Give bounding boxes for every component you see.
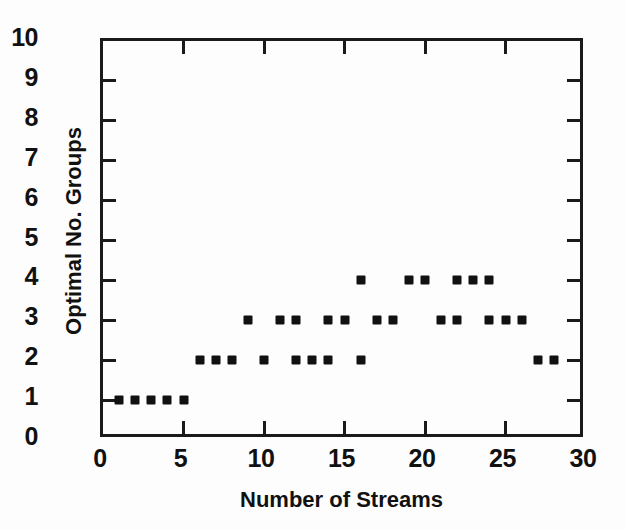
data-point	[115, 396, 124, 405]
data-point	[356, 276, 365, 285]
data-point	[179, 396, 188, 405]
x-tick-20	[424, 421, 427, 434]
y-tick-label-3: 3	[25, 304, 38, 329]
x-tick-label-15: 15	[312, 446, 372, 471]
y-tick-label-6: 6	[25, 185, 38, 210]
y-axis-title: Optimal No. Groups	[61, 31, 87, 431]
y-tick-7	[103, 159, 116, 162]
x-tick-15	[343, 421, 346, 434]
data-point	[292, 316, 301, 325]
data-point	[453, 276, 462, 285]
data-point	[324, 316, 333, 325]
y-tick-right-9	[567, 79, 580, 82]
y-tick-label-4: 4	[25, 264, 38, 289]
x-tick-top-20	[424, 41, 427, 54]
x-tick-label-10: 10	[231, 446, 291, 471]
x-tick-label-25: 25	[473, 446, 533, 471]
y-tick-9	[103, 79, 116, 82]
data-point	[131, 396, 140, 405]
x-tick-top-25	[504, 41, 507, 54]
data-point	[388, 316, 397, 325]
x-tick-top-10	[263, 41, 266, 54]
y-tick-8	[103, 119, 116, 122]
y-tick-right-7	[567, 159, 580, 162]
y-tick-label-10: 10	[11, 25, 38, 50]
y-tick-4	[103, 279, 116, 282]
y-tick-right-2	[567, 359, 580, 362]
y-tick-right-4	[567, 279, 580, 282]
data-point	[517, 316, 526, 325]
data-point	[211, 356, 220, 365]
y-tick-label-1: 1	[25, 384, 38, 409]
x-tick-label-5: 5	[151, 446, 211, 471]
data-point	[163, 396, 172, 405]
data-point	[437, 316, 446, 325]
y-tick-right-3	[567, 319, 580, 322]
data-point	[324, 356, 333, 365]
data-point	[243, 316, 252, 325]
x-tick-label-30: 30	[553, 446, 613, 471]
data-point	[404, 276, 413, 285]
y-tick-label-9: 9	[25, 65, 38, 90]
x-tick-label-20: 20	[392, 446, 452, 471]
data-point	[340, 316, 349, 325]
y-tick-right-6	[567, 199, 580, 202]
x-tick-top-5	[182, 41, 185, 54]
data-point	[147, 396, 156, 405]
data-point	[549, 356, 558, 365]
data-point	[485, 276, 494, 285]
x-tick-5	[182, 421, 185, 434]
data-point	[501, 316, 510, 325]
data-point	[453, 316, 462, 325]
data-point	[227, 356, 236, 365]
data-point	[292, 356, 301, 365]
data-point	[195, 356, 204, 365]
data-point	[485, 316, 494, 325]
plot-area	[100, 38, 583, 437]
y-tick-6	[103, 199, 116, 202]
x-tick-25	[504, 421, 507, 434]
y-tick-label-0: 0	[25, 424, 38, 449]
data-point	[469, 276, 478, 285]
data-point	[372, 316, 381, 325]
y-tick-2	[103, 359, 116, 362]
data-point	[421, 276, 430, 285]
data-point	[533, 356, 542, 365]
x-tick-10	[263, 421, 266, 434]
y-tick-5	[103, 239, 116, 242]
data-point	[308, 356, 317, 365]
y-tick-3	[103, 319, 116, 322]
y-tick-label-5: 5	[25, 225, 38, 250]
y-tick-right-8	[567, 119, 580, 122]
y-tick-label-8: 8	[25, 105, 38, 130]
x-tick-label-0: 0	[70, 446, 130, 471]
x-tick-top-15	[343, 41, 346, 54]
x-axis-title: Number of Streams	[100, 487, 583, 513]
data-point	[276, 316, 285, 325]
y-tick-right-5	[567, 239, 580, 242]
y-tick-label-2: 2	[25, 344, 38, 369]
y-tick-right-1	[567, 399, 580, 402]
chart-figure: 012345678910 051015202530 Number of Stre…	[0, 0, 626, 530]
y-tick-label-7: 7	[25, 145, 38, 170]
data-point	[356, 356, 365, 365]
data-point	[260, 356, 269, 365]
